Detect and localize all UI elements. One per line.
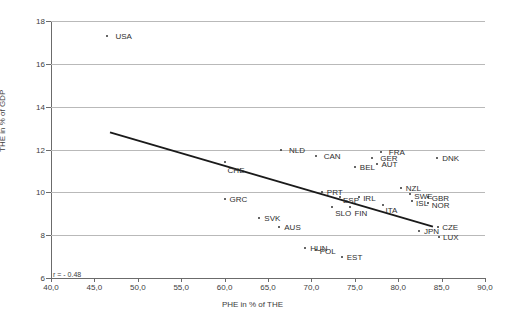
x-tick-label: 60,0 (217, 283, 233, 292)
data-point-label-svk: SVK (264, 214, 280, 223)
x-tick (225, 278, 226, 282)
x-tick (268, 278, 269, 282)
scatter-chart: 681012141618 40,045,050,055,060,065,070,… (0, 0, 505, 326)
x-tick-label: 45,0 (87, 283, 103, 292)
data-point-aus (278, 226, 280, 228)
y-tick-label: 12 (36, 145, 45, 154)
y-tick-label: 8 (41, 231, 45, 240)
x-tick (485, 278, 486, 282)
data-point-jpn (418, 230, 420, 232)
y-tick-label: 6 (41, 274, 45, 283)
data-point-gbr (427, 196, 429, 198)
data-point-lux (438, 236, 440, 238)
data-point-label-usa: USA (115, 31, 131, 40)
data-point-fra (380, 151, 382, 153)
data-point-est (341, 256, 343, 258)
y-tick-label: 10 (36, 188, 45, 197)
data-point-label-che: CHE (228, 166, 245, 175)
data-point-bel (354, 166, 356, 168)
x-tick-label: 85,0 (434, 283, 450, 292)
data-point-label-ita: ITA (386, 206, 398, 215)
x-tick (311, 278, 312, 282)
data-point-dnk (436, 157, 438, 159)
x-tick (94, 278, 95, 282)
data-point-label-jpn: JPN (424, 226, 439, 235)
data-point-label-esp: ESP (343, 195, 359, 204)
data-point-prt (321, 191, 323, 193)
data-point-hun (304, 247, 306, 249)
data-point-label-irl: IRL (363, 193, 375, 202)
plot-area: 681012141618 40,045,050,055,060,065,070,… (51, 21, 485, 278)
x-tick (398, 278, 399, 282)
data-point-label-nld: NLD (289, 145, 305, 154)
data-point-label-can: CAN (324, 151, 341, 160)
data-point-label-slo: SLO (335, 209, 351, 218)
data-point-esp (339, 196, 341, 198)
data-point-svk (258, 217, 260, 219)
correlation-annotation: r = - 0.48 (53, 271, 81, 278)
data-point-label-aus: AUS (284, 222, 300, 231)
x-tick-label: 65,0 (260, 283, 276, 292)
data-point-label-nor: NOR (432, 201, 450, 210)
data-point-slo (331, 206, 333, 208)
data-point-label-dnk: DNK (442, 154, 459, 163)
data-point-ger (371, 157, 373, 159)
y-axis-title: THE in % of GDP (0, 90, 7, 152)
data-point-ita (382, 204, 384, 206)
x-tick (138, 278, 139, 282)
y-tick-label: 18 (36, 17, 45, 26)
x-tick (442, 278, 443, 282)
data-point-label-bel: BEL (360, 162, 375, 171)
x-tick-label: 55,0 (173, 283, 189, 292)
data-point-label-cze: CZE (442, 222, 458, 231)
data-point-grc (224, 198, 226, 200)
x-tick (355, 278, 356, 282)
x-tick-label: 90,0 (477, 283, 493, 292)
data-point-label-est: EST (347, 252, 363, 261)
data-point-pol (315, 249, 317, 251)
trendline (51, 21, 485, 278)
data-point-label-pol: POL (320, 247, 336, 256)
x-tick (181, 278, 182, 282)
x-tick-label: 80,0 (390, 283, 406, 292)
data-point-irl (358, 196, 360, 198)
data-point-aut (376, 163, 378, 165)
data-point-fin (349, 206, 351, 208)
data-point-nld (280, 149, 282, 151)
x-tick-label: 70,0 (304, 283, 320, 292)
data-point-label-lux: LUX (443, 233, 459, 242)
data-point-can (315, 155, 317, 157)
data-point-label-aut: AUT (382, 160, 398, 169)
data-point-label-grc: GRC (230, 194, 248, 203)
x-tick (51, 278, 52, 282)
data-point-swe (409, 193, 411, 195)
x-tick-label: 40,0 (43, 283, 59, 292)
data-point-usa (106, 35, 108, 37)
data-point-label-fin: FIN (354, 209, 367, 218)
data-point-isl (411, 200, 413, 202)
y-tick-label: 14 (36, 102, 45, 111)
x-tick-label: 75,0 (347, 283, 363, 292)
data-point-cze (437, 226, 439, 228)
y-tick-label: 16 (36, 59, 45, 68)
data-point-nzl (400, 187, 402, 189)
data-point-che (224, 161, 226, 163)
x-axis-title: PHE in % of THE (0, 300, 505, 309)
x-tick-label: 50,0 (130, 283, 146, 292)
data-point-nor (427, 202, 429, 204)
